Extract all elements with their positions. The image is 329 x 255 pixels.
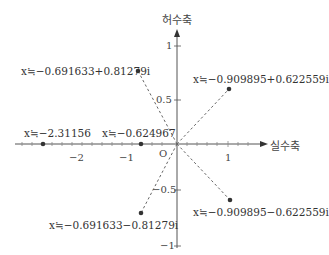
imaginary-axis-arrow-icon: [174, 29, 180, 37]
y-tick-label: 1: [166, 40, 172, 51]
root-label-lower-right: x≒−0.909895−0.622559i: [193, 206, 329, 218]
point-root-real-2: [139, 142, 144, 147]
point-root-real-1: [41, 142, 46, 147]
imaginary-axis-label: 허수축: [162, 11, 192, 27]
root-label-upper-left: x≒−0.691633+0.81279i: [21, 65, 150, 77]
root-label-real-2: x≒−0.624967: [102, 127, 176, 139]
x-tick-label: −1: [119, 152, 134, 163]
y-tick-label: −0.5: [152, 184, 176, 195]
root-points: [41, 69, 233, 216]
root-label-upper-right: x≒−0.909895+0.622559i: [193, 73, 329, 85]
point-root-upper-right: [227, 87, 232, 92]
y-tick-label: 0.5: [156, 94, 172, 105]
y-tick-label: −1: [160, 240, 175, 251]
origin-label: O: [159, 148, 167, 159]
real-axis-label: 실수축: [270, 137, 300, 153]
root-label-lower-left: x≒−0.691633−0.81279i: [49, 219, 178, 231]
x-tick-label: −2: [69, 152, 84, 163]
x-tick-label: 1: [225, 152, 231, 163]
point-root-lower-left: [139, 211, 144, 216]
root-label-real-1: x≒−2.31156: [24, 127, 91, 139]
point-root-lower-right: [228, 198, 233, 203]
real-axis-arrow-icon: [260, 141, 268, 147]
